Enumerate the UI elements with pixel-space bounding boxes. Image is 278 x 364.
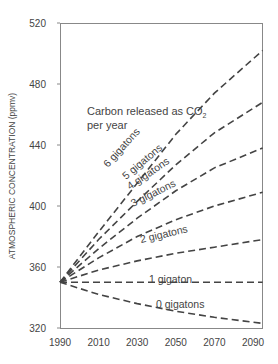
x-axis: 199020102030205020702090 xyxy=(49,337,265,348)
series-label: 0 gigatons xyxy=(156,298,204,310)
y-tick-label: 360 xyxy=(29,262,46,273)
y-tick-label: 320 xyxy=(29,323,46,334)
annotation-subscript: 2 xyxy=(203,112,207,119)
y-axis-label: ATMOSPHERIC CONCENTRATION (ppmv) xyxy=(7,93,17,260)
y-tick-label: 480 xyxy=(29,79,46,90)
series-label: 1 gigaton xyxy=(149,273,192,285)
x-tick-label: 2010 xyxy=(87,337,110,348)
annotation-line2: per year xyxy=(87,119,128,131)
x-tick-label: 2070 xyxy=(203,337,226,348)
x-tick-label: 1990 xyxy=(49,337,72,348)
x-tick-label: 2090 xyxy=(242,337,265,348)
series-label: 2 gigatons xyxy=(139,222,189,245)
x-tick-label: 2050 xyxy=(165,337,188,348)
annotation: Carbon released as CO2 per year xyxy=(87,105,207,131)
annotation-line1: Carbon released as CO xyxy=(87,105,203,117)
svg-text:Carbon released as CO2: Carbon released as CO2 xyxy=(87,105,207,119)
y-tick-label: 440 xyxy=(29,140,46,151)
co2-concentration-chart: 320360400440480520 199020102030205020702… xyxy=(0,0,278,364)
y-tick-label: 520 xyxy=(29,18,46,29)
x-tick-label: 2030 xyxy=(126,337,149,348)
y-tick-label: 400 xyxy=(29,201,46,212)
y-axis: 320360400440480520 xyxy=(29,18,60,334)
